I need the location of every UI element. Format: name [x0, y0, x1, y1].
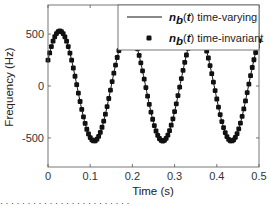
- data-marker: [101, 119, 106, 124]
- data-marker: [221, 125, 226, 130]
- data-marker: [51, 39, 56, 44]
- data-marker: [150, 117, 155, 122]
- data-marker: [250, 65, 255, 70]
- data-marker: [76, 91, 81, 96]
- data-marker: [142, 77, 147, 82]
- data-marker: [246, 82, 251, 87]
- data-marker: [79, 107, 84, 112]
- data-marker: [248, 73, 253, 78]
- x-tick-label: 0: [45, 170, 51, 182]
- legend-marker-swatch: [147, 36, 152, 41]
- data-marker: [179, 76, 184, 81]
- data-marker: [174, 101, 179, 106]
- data-marker: [64, 39, 69, 44]
- data-marker: [84, 127, 89, 132]
- legend-symbol: n: [169, 32, 176, 44]
- data-marker: [144, 85, 149, 90]
- legend-subscript: b: [176, 14, 183, 26]
- x-tick-label: 0.3: [167, 170, 182, 182]
- data-marker: [165, 133, 170, 138]
- x-tick-label: 0.5: [251, 170, 266, 182]
- data-marker: [147, 102, 152, 107]
- data-marker: [171, 116, 176, 121]
- y-tick-label: -500: [22, 132, 44, 144]
- data-marker: [66, 44, 71, 49]
- data-marker: [78, 99, 83, 104]
- data-marker: [152, 123, 157, 128]
- legend: nb(t) time-varyingnb(t) time-invariant: [118, 5, 263, 50]
- data-marker: [140, 68, 145, 73]
- data-marker: [149, 110, 154, 115]
- legend-arg-close: ) time-invariant: [191, 32, 264, 44]
- data-marker: [154, 129, 159, 134]
- data-marker: [243, 99, 248, 104]
- data-marker: [206, 56, 211, 61]
- data-marker: [110, 79, 115, 84]
- x-axis-label: Time (s): [132, 185, 174, 197]
- data-marker: [176, 93, 181, 98]
- data-marker: [211, 80, 216, 85]
- data-marker: [167, 128, 172, 133]
- data-marker: [253, 50, 258, 55]
- data-marker: [100, 125, 105, 130]
- data-marker: [49, 44, 54, 49]
- x-tick-label: 0.1: [83, 170, 98, 182]
- legend-subscript: b: [176, 35, 183, 47]
- data-marker: [81, 114, 86, 119]
- data-marker: [235, 131, 240, 136]
- x-tick-label: 0.2: [125, 170, 140, 182]
- x-tick-label: 0.4: [209, 170, 224, 182]
- data-marker: [219, 119, 224, 124]
- data-marker: [98, 130, 103, 135]
- data-marker: [252, 57, 257, 62]
- data-marker: [177, 85, 182, 90]
- data-marker: [74, 82, 79, 87]
- data-marker: [181, 68, 186, 73]
- y-tick-label: 500: [26, 28, 44, 40]
- data-marker: [236, 126, 241, 131]
- data-marker: [113, 63, 118, 68]
- caption-text: · · · · · · · · · · · · · · · · · · · · …: [0, 198, 270, 206]
- data-marker: [214, 97, 219, 102]
- data-marker: [137, 53, 142, 58]
- data-marker: [138, 60, 143, 65]
- frequency-chart: 00.10.20.30.40.5-5000500 nb(t) time-vary…: [0, 0, 270, 206]
- data-marker: [115, 55, 120, 60]
- data-marker: [184, 53, 189, 58]
- data-marker: [245, 90, 250, 95]
- data-marker: [218, 112, 223, 117]
- data-marker: [240, 114, 245, 119]
- data-marker: [69, 58, 74, 63]
- data-marker: [106, 96, 111, 101]
- data-marker: [103, 112, 108, 117]
- data-marker: [169, 123, 174, 128]
- data-marker: [208, 63, 213, 68]
- data-marker: [83, 121, 88, 126]
- data-marker: [71, 66, 76, 71]
- data-marker: [68, 51, 73, 56]
- y-axis-label: Frequency (Hz): [3, 47, 15, 126]
- data-marker: [105, 104, 110, 109]
- data-marker: [108, 88, 113, 93]
- data-marker: [238, 121, 243, 126]
- data-marker: [241, 107, 246, 112]
- data-marker: [172, 109, 177, 114]
- data-marker: [209, 71, 214, 76]
- data-marker: [145, 94, 150, 99]
- data-marker: [182, 60, 187, 65]
- data-marker: [111, 71, 116, 76]
- data-marker: [62, 34, 67, 39]
- legend-symbol: n: [169, 11, 176, 23]
- y-tick-label: 0: [38, 80, 44, 92]
- data-marker: [73, 74, 78, 79]
- legend-arg-close: ) time-varying: [191, 11, 258, 23]
- data-marker: [216, 105, 221, 110]
- data-marker: [213, 88, 218, 93]
